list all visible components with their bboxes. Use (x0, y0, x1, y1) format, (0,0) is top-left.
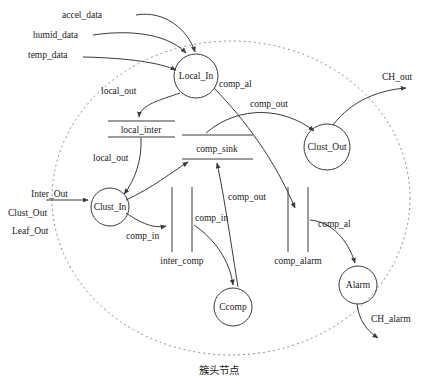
label-leaf-out: Leaf_Out (12, 226, 49, 236)
flow-label-comp-al-2: comp_al (318, 219, 351, 229)
flow-ch-out (333, 88, 406, 125)
label-clust-out-input: Clust_Out (8, 208, 47, 218)
flow-comp-in-to-inter-comp (126, 213, 166, 227)
flow-local-out-to-store (139, 93, 180, 117)
data-store-inter-comp (172, 187, 192, 252)
label-ch-alarm: CH_alarm (371, 314, 411, 324)
store-label-inter-comp: inter_comp (160, 256, 204, 266)
process-label-clust-out: Clust_Out (307, 142, 346, 152)
label-accel-data: accel_data (62, 10, 103, 20)
flow-label-comp-al-1: comp_al (219, 79, 252, 89)
store-label-comp-alarm: comp_alarm (274, 256, 322, 266)
flow-temp-data (83, 57, 176, 70)
flow-label-comp-out-2: comp_out (228, 192, 266, 202)
flow-humid-data (93, 33, 186, 53)
store-label-comp-sink: comp_sink (196, 144, 238, 154)
label-temp-data: temp_data (28, 50, 68, 60)
dfd-canvas: Local_In Clust_Out Clust_In Ccomp Alarm … (0, 0, 427, 387)
process-label-alarm: Alarm (346, 280, 371, 290)
data-store-comp-alarm (288, 187, 308, 252)
flow-comp-out-to-clust-out (206, 112, 314, 133)
flow-comp-out-to-comp-sink (217, 163, 238, 287)
flow-label-local-out-2: local_out (93, 153, 129, 163)
flow-local-out-to-clust-in (124, 138, 141, 194)
diagram-caption: 簇头节点 (199, 364, 239, 376)
process-label-clust-in: Clust_In (94, 202, 127, 212)
process-label-ccomp: Ccomp (219, 302, 247, 312)
label-ch-out: CH_out (382, 72, 412, 82)
store-label-local-inter: local_inter (121, 125, 162, 135)
label-humid-data: humid_data (33, 30, 79, 40)
flow-label-comp-in-1: comp_in (126, 231, 159, 241)
flow-label-local-out-1: local_out (101, 86, 137, 96)
flow-label-comp-out-1: comp_out (250, 99, 288, 109)
process-label-local-in: Local_In (179, 71, 214, 81)
dfd-diagram: Local_In Clust_Out Clust_In Ccomp Alarm … (0, 0, 427, 387)
flow-comp-in-to-ccomp (194, 225, 233, 285)
flow-clust-in-to-comp-sink (126, 162, 188, 200)
flow-label-comp-in-2: comp_in (195, 213, 228, 223)
label-inter-out: Inter_Out (31, 189, 68, 199)
